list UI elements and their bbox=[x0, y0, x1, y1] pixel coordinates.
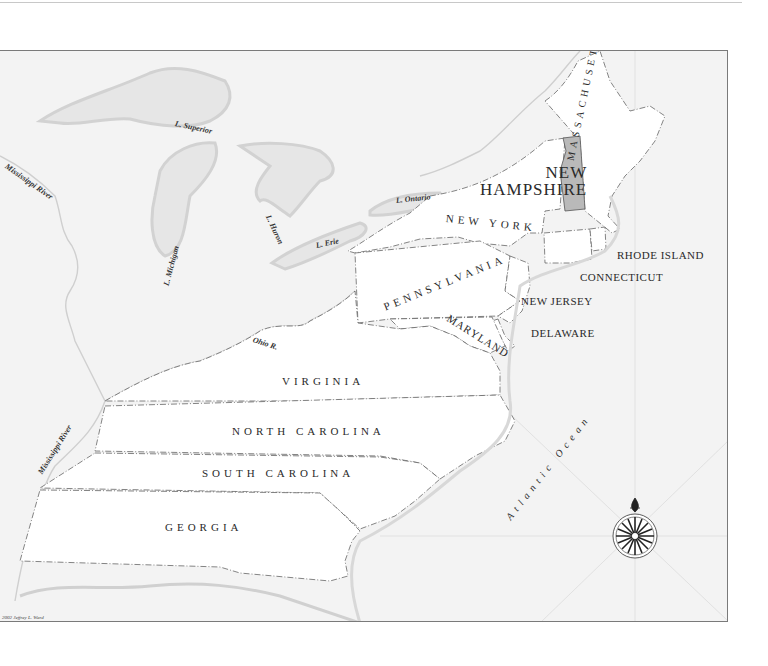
north-carolina-label: NORTH CAROLINA bbox=[232, 425, 385, 437]
thirteen-colonies-map: L. Superior L. Michigan L. Huron L. Erie… bbox=[0, 50, 728, 622]
south-carolina-label: SOUTH CAROLINA bbox=[202, 467, 354, 479]
map-credit: 2002 Jeffrey L. Ward bbox=[2, 615, 44, 620]
rhode-island-label: RHODE ISLAND bbox=[617, 249, 704, 261]
top-divider bbox=[0, 2, 742, 3]
new-hampshire-label-line2: HAMPSHIRE bbox=[480, 181, 587, 198]
connecticut-label: CONNECTICUT bbox=[580, 271, 663, 283]
virginia-label: VIRGINIA bbox=[282, 375, 364, 387]
georgia-label: GEORGIA bbox=[165, 521, 243, 533]
new-jersey-label: NEW JERSEY bbox=[521, 295, 593, 307]
delaware-label: DELAWARE bbox=[531, 327, 595, 339]
new-hampshire-label: NEW HAMPSHIRE bbox=[480, 164, 587, 198]
new-hampshire-label-line1: NEW bbox=[480, 164, 587, 181]
map-graphic bbox=[0, 51, 728, 622]
compass-rose-icon bbox=[613, 498, 657, 558]
colonies bbox=[20, 51, 665, 581]
